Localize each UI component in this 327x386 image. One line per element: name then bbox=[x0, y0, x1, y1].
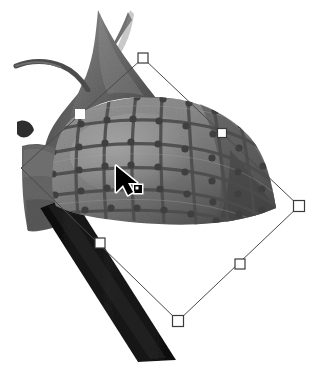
handle-bottom-right[interactable] bbox=[235, 259, 245, 269]
handle-top[interactable] bbox=[138, 53, 148, 63]
transform-handles[interactable] bbox=[76, 53, 305, 327]
handle-bottom-left[interactable] bbox=[95, 238, 105, 248]
handle-right[interactable] bbox=[294, 201, 305, 212]
transform-bounding-box[interactable] bbox=[21, 58, 299, 321]
handle-top-left[interactable] bbox=[76, 110, 85, 119]
selection-layer[interactable] bbox=[0, 0, 327, 386]
arrow-pointer bbox=[116, 166, 137, 195]
editor-canvas[interactable]: Image Warp / Mesh Transform Editor Grays… bbox=[0, 0, 327, 386]
handle-bottom[interactable] bbox=[173, 316, 184, 327]
handle-top-right[interactable] bbox=[218, 129, 227, 138]
